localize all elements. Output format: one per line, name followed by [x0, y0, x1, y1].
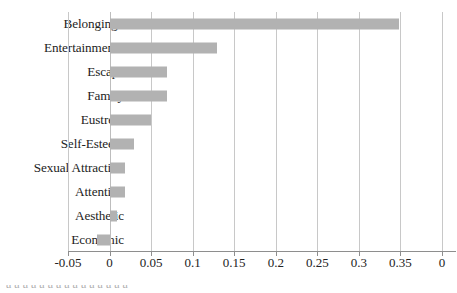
bar-row	[68, 12, 442, 36]
bar-row	[68, 108, 442, 132]
x-tick-label: 0.3	[351, 256, 367, 269]
bar-row	[68, 36, 442, 60]
bar-row	[68, 180, 442, 204]
bar	[110, 163, 126, 174]
gridline	[442, 12, 443, 252]
x-axis-tick-labels: -0.0500.050.10.150.20.250.30.350	[68, 256, 442, 276]
x-tick-label: 0.05	[140, 256, 163, 269]
x-tick-label: 0.35	[389, 256, 412, 269]
bar	[110, 19, 399, 30]
x-tick-label: 0.2	[268, 256, 284, 269]
x-tick-label: 0.1	[185, 256, 201, 269]
bar	[110, 211, 117, 222]
bar	[110, 139, 134, 150]
bar	[110, 115, 152, 126]
plot-area	[68, 12, 442, 252]
bar	[110, 187, 126, 198]
x-tick-label: 0	[106, 256, 113, 269]
x-tick-label: 0	[439, 256, 446, 269]
x-tick-label: -0.05	[54, 256, 81, 269]
bar-row	[68, 228, 442, 252]
bar	[97, 235, 109, 246]
bar-row	[68, 132, 442, 156]
bar-series	[68, 12, 442, 252]
clipped-caption-strip: a a a a a a a a a a a a a a a	[0, 285, 457, 293]
bar-row	[68, 84, 442, 108]
bar-row	[68, 204, 442, 228]
x-tick-label: 0.15	[223, 256, 246, 269]
bar	[110, 67, 167, 78]
bar-chart: Belonging*Entertainment*EscapeFamilyEust…	[0, 0, 457, 293]
bar	[110, 43, 217, 54]
bar-row	[68, 60, 442, 84]
bar	[110, 91, 167, 102]
clipped-caption-text: a a a a a a a a a a a a a a a	[6, 285, 128, 290]
x-tick-label: 0.25	[306, 256, 329, 269]
x-axis-line	[68, 251, 456, 252]
bar-row	[68, 156, 442, 180]
